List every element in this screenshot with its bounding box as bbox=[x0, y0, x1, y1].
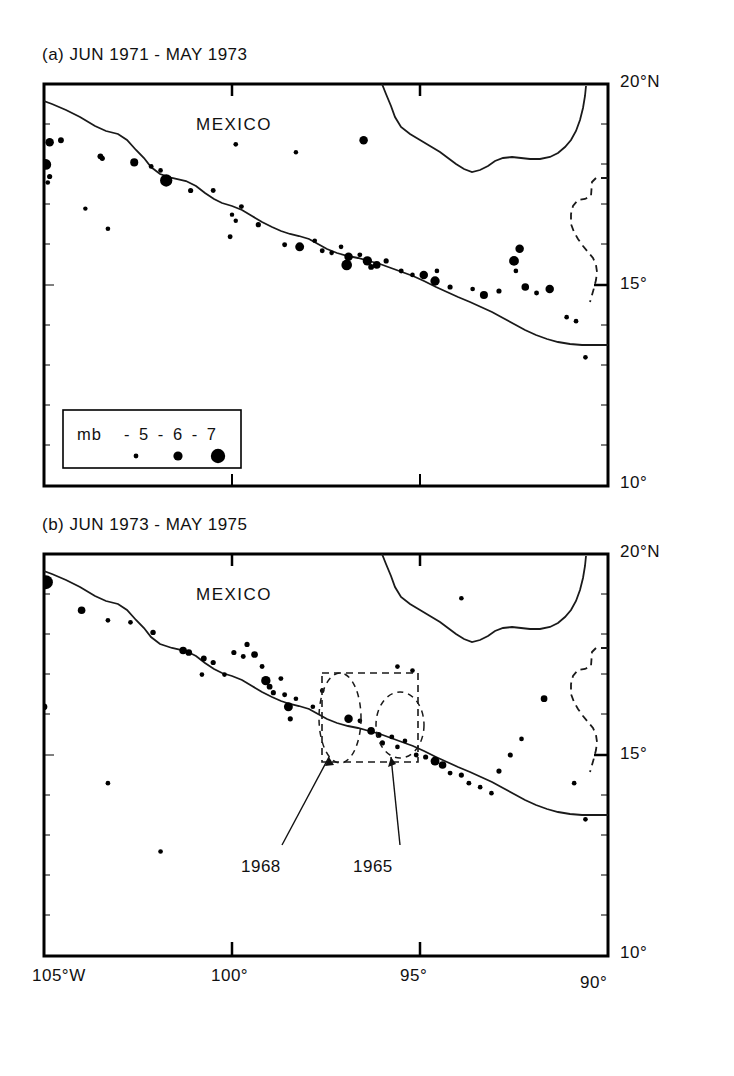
epicenter-dot bbox=[311, 704, 316, 709]
epicenter-dot bbox=[41, 703, 48, 710]
y-axis-label-15-panel-a: 15° bbox=[620, 274, 647, 294]
legend-dot-mb7 bbox=[211, 449, 225, 463]
epicenter-dot bbox=[158, 168, 163, 173]
epicenter-dots-panel-a bbox=[41, 136, 588, 360]
epicenter-dot bbox=[282, 242, 287, 247]
epicenter-dot bbox=[541, 695, 548, 702]
epicenter-dot bbox=[508, 752, 513, 757]
epicenter-dot bbox=[58, 137, 64, 143]
epicenter-dot bbox=[496, 769, 501, 774]
epicenter-dot bbox=[251, 651, 258, 658]
x-axis-label-95: 95° bbox=[400, 966, 427, 986]
annotation-label-1968: 1968 bbox=[241, 857, 281, 876]
epicenter-dot bbox=[519, 737, 524, 742]
epicenter-dot bbox=[564, 315, 569, 320]
epicenter-dot bbox=[267, 684, 273, 690]
y-axis-label-15-panel-b: 15° bbox=[620, 744, 647, 764]
epicenter-dot bbox=[344, 715, 352, 723]
epicenter-dot bbox=[241, 654, 246, 659]
epicenter-dot bbox=[410, 273, 415, 278]
epicenter-dots-panel-b bbox=[39, 575, 588, 854]
epicenter-dot bbox=[149, 164, 154, 169]
epicenter-dot bbox=[45, 138, 53, 146]
epicenter-dot bbox=[448, 284, 453, 289]
epicenter-dot bbox=[200, 672, 205, 677]
epicenter-dot bbox=[514, 269, 519, 274]
epicenter-dot bbox=[128, 620, 133, 625]
rupture-zone-annotations: 1968 1965 bbox=[241, 673, 424, 876]
legend-scale-text: - 5 - 6 - 7 bbox=[124, 425, 218, 443]
epicenter-dot bbox=[367, 727, 375, 735]
border-dashed-a bbox=[571, 178, 608, 302]
epicenter-dot bbox=[233, 142, 238, 147]
epicenter-dot bbox=[47, 174, 52, 179]
epicenter-dot bbox=[583, 355, 588, 360]
annotation-label-1965: 1965 bbox=[353, 857, 393, 876]
epicenter-dot bbox=[211, 660, 216, 665]
border-dashed-b bbox=[571, 648, 608, 772]
epicenter-dot bbox=[534, 291, 539, 296]
panel-b-frame bbox=[44, 554, 608, 956]
epicenter-dot bbox=[294, 150, 298, 154]
legend-dot-mb6 bbox=[173, 451, 182, 460]
figure-canvas: MEXICO mb - 5 - 6 - 7 bbox=[0, 0, 734, 1076]
epicenter-dot bbox=[448, 771, 453, 776]
epicenter-dot bbox=[329, 251, 334, 256]
epicenter-dot bbox=[395, 745, 400, 750]
epicenter-dot bbox=[466, 781, 471, 786]
y-axis-label-20n-panel-a: 20°N bbox=[620, 72, 660, 92]
epicenter-dot bbox=[423, 754, 428, 759]
epicenter-dot bbox=[312, 238, 317, 243]
epicenter-dot bbox=[574, 319, 579, 324]
coastline-pacific-a bbox=[44, 101, 608, 345]
epicenter-dot bbox=[188, 188, 193, 193]
epicenter-dot bbox=[271, 690, 276, 695]
epicenter-dot bbox=[572, 781, 577, 786]
epicenter-dot bbox=[420, 271, 428, 279]
ellipse-1965 bbox=[376, 692, 424, 758]
epicenter-dot bbox=[278, 676, 283, 681]
x-axis-label-90: 90° bbox=[580, 973, 607, 993]
epicenter-dot bbox=[435, 269, 440, 274]
seismicity-figure: (a) JUN 1971 - MAY 1973 bbox=[0, 0, 734, 1076]
epicenter-dot bbox=[384, 258, 389, 263]
epicenter-dot bbox=[459, 596, 464, 601]
epicenter-dot bbox=[515, 245, 523, 253]
epicenter-dot bbox=[357, 252, 362, 257]
epicenter-dot bbox=[244, 642, 249, 647]
panel-b-title: (b) JUN 1973 - MAY 1975 bbox=[42, 515, 248, 535]
epicenter-dot bbox=[106, 781, 111, 786]
epicenter-dot bbox=[45, 180, 50, 185]
epicenter-dot bbox=[459, 773, 464, 778]
y-axis-label-20n-panel-b: 20°N bbox=[620, 542, 660, 562]
epicenter-dot bbox=[399, 268, 404, 273]
epicenter-dot bbox=[414, 753, 419, 758]
epicenter-dot bbox=[288, 716, 293, 721]
epicenter-dot bbox=[294, 696, 299, 701]
arrow-line-1968 bbox=[282, 757, 329, 845]
epicenter-dot bbox=[106, 226, 111, 231]
epicenter-dot bbox=[431, 757, 440, 766]
epicenter-dot bbox=[478, 785, 483, 790]
epicenter-dot bbox=[260, 664, 265, 669]
epicenter-dot bbox=[341, 260, 352, 271]
epicenter-dot bbox=[480, 291, 488, 299]
y-axis-label-10-panel-a: 10° bbox=[620, 473, 647, 493]
epicenter-dot bbox=[373, 261, 381, 269]
epicenter-dot bbox=[39, 575, 53, 589]
epicenter-dot bbox=[320, 248, 325, 253]
region-label-a: MEXICO bbox=[196, 115, 272, 134]
epicenter-dot bbox=[185, 649, 192, 656]
epicenter-dot bbox=[583, 817, 588, 822]
epicenter-dot bbox=[339, 244, 344, 249]
epicenter-dot bbox=[201, 656, 207, 662]
epicenter-dot bbox=[230, 212, 234, 216]
epicenter-dot bbox=[282, 692, 287, 697]
epicenter-dot bbox=[78, 606, 86, 614]
epicenter-dot bbox=[158, 849, 163, 854]
epicenter-dot bbox=[239, 204, 244, 209]
epicenter-dot bbox=[359, 136, 367, 144]
epicenter-dot bbox=[106, 618, 111, 623]
epicenter-dot bbox=[41, 159, 52, 170]
legend-dot-mb5 bbox=[134, 454, 139, 459]
